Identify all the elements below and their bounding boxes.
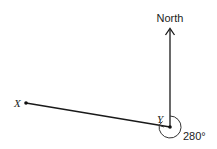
point-x [24,101,28,105]
north-label: North [157,12,184,24]
bearing-diagram: North X Y 280° [0,0,217,149]
point-y [168,125,172,129]
label-y: Y [157,113,165,125]
segment-xy [26,103,170,127]
label-x: X [13,97,22,109]
angle-label: 280° [183,130,206,142]
